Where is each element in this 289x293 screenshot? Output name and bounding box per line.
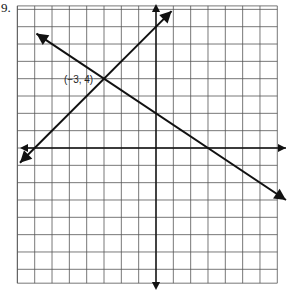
line-2-arrow-start [36, 34, 49, 45]
line-2-line [36, 34, 286, 200]
y-axis-arrow-down [152, 282, 160, 290]
y-axis-arrow-up [152, 4, 160, 12]
x-axis-arrow-right [278, 144, 286, 152]
intersection-label: (−3, 4) [64, 74, 93, 85]
line-2-arrow-end [273, 189, 286, 200]
coordinate-plane: (−3, 4) [0, 0, 289, 293]
line-1-line [20, 11, 172, 163]
